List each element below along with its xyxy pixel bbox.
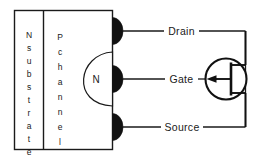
gate-contact <box>113 66 124 93</box>
substrate-letter: u <box>27 56 32 66</box>
gate-label: Gate <box>170 73 194 85</box>
channel-letter: n <box>58 92 63 102</box>
channel-letter: n <box>58 107 63 117</box>
substrate-letter: s <box>27 82 31 92</box>
jfet-symbol <box>206 31 247 127</box>
substrate-letter: b <box>27 69 32 79</box>
substrate-letter: N <box>26 30 32 40</box>
drain-label: Drain <box>168 25 195 37</box>
channel-letter: l <box>59 137 61 147</box>
n-region-letter: N <box>92 74 99 85</box>
channel-letter: h <box>58 62 63 72</box>
substrate-letter: r <box>28 108 31 118</box>
substrate-letter: s <box>27 43 31 53</box>
diagram-canvas: N s u b s t r a t e P c h a n n e l N <box>0 0 262 163</box>
channel-letter: P <box>57 32 63 42</box>
drain-contact <box>113 18 124 45</box>
source-label: Source <box>164 121 199 133</box>
substrate-letter: a <box>27 121 32 131</box>
source-contact <box>113 114 124 141</box>
channel-letter: e <box>58 122 63 132</box>
substrate-letter: e <box>27 147 32 157</box>
channel-letter: a <box>58 77 63 87</box>
jfet-diagram: N s u b s t r a t e P c h a n n e l N <box>0 0 262 163</box>
